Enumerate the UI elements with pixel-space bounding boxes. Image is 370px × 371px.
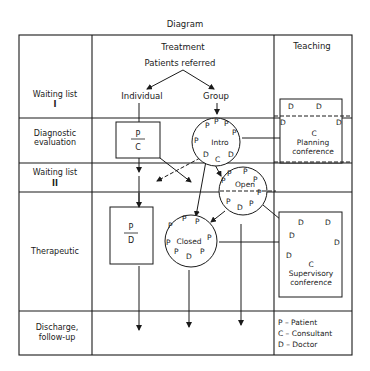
doctor-label: D: [325, 218, 331, 227]
legend: P – Patient C – Consultant D – Doctor: [278, 318, 332, 349]
box-doctor-label: D: [128, 236, 134, 245]
box-patient-label: P: [136, 130, 141, 139]
member-patient: P: [214, 117, 219, 126]
table-grid: [19, 35, 352, 355]
row-label-discharge: Discharge,: [36, 323, 79, 332]
supervisory-conference-box: D D D D D C Supervisory conference: [279, 212, 342, 297]
doctor-label: D: [336, 118, 342, 127]
member-patient: P: [257, 188, 262, 197]
row-label-waiting-list-2-numeral: II: [52, 179, 58, 188]
doctor-label: D: [334, 238, 340, 247]
member-patient: P: [207, 233, 212, 242]
member-patient: P: [253, 175, 258, 184]
individual-label: Individual: [121, 91, 162, 101]
group-label: Group: [203, 91, 229, 101]
row-labels: Waiting list I Diagnostic evaluation Wai…: [30, 90, 79, 342]
legend-consultant: C – Consultant: [278, 329, 332, 338]
row-label-waiting-list-1-numeral: I: [54, 100, 57, 109]
row-label-therapeutic: Therapeutic: [30, 247, 79, 256]
member-patient: P: [232, 128, 237, 137]
member-patient: P: [168, 221, 173, 230]
doctor-label: D: [286, 251, 292, 260]
planning-conference-box: D D D D C Planning conference: [274, 99, 352, 163]
legend-patient: P – Patient: [278, 318, 317, 327]
row-label-waiting-list-1: Waiting list: [33, 90, 77, 99]
member-patient: P: [243, 167, 248, 176]
row-label-waiting-list-2: Waiting list: [33, 168, 77, 177]
member-doctor: D: [186, 252, 192, 261]
member-patient: P: [249, 199, 254, 208]
member-patient: P: [166, 238, 171, 247]
doctor-label: D: [298, 218, 304, 227]
column-header-teaching: Teaching: [292, 41, 330, 51]
doctor-label: D: [289, 231, 295, 240]
member-patient: P: [226, 197, 231, 206]
column-header-treatment: Treatment: [160, 42, 205, 52]
conference-label: conference: [290, 278, 332, 287]
legend-doctor: D – Doctor: [278, 340, 318, 349]
box-consultant-label: C: [135, 143, 141, 152]
member-doctor: D: [237, 203, 243, 212]
row-label-follow-up: follow-up: [39, 333, 76, 342]
member-patient: P: [174, 247, 179, 256]
diagram-title: Diagram: [167, 19, 204, 29]
member-patient: P: [200, 247, 205, 256]
box-patient-label: P: [129, 223, 134, 232]
planning-label: Planning: [297, 138, 330, 147]
member-patient: P: [195, 217, 200, 226]
row-label-evaluation: evaluation: [34, 138, 76, 147]
closed-label: Closed: [176, 237, 201, 246]
open-group-circle: Open P P P P P P P D: [219, 167, 276, 215]
intro-group-circle: Intro P P P P P D C D: [192, 117, 240, 166]
patients-referred-label: Patients referred: [145, 58, 216, 68]
referral-arrows: [147, 70, 214, 89]
conference-label: conference: [292, 147, 334, 156]
consultant-label: C: [308, 260, 313, 269]
therapeutic-individual-box: P D: [110, 207, 153, 264]
member-doctor: D: [203, 150, 209, 159]
intro-label: Intro: [211, 138, 229, 147]
member-doctor: D: [228, 150, 234, 159]
doctor-label: D: [316, 102, 322, 111]
doctor-label: D: [280, 118, 286, 127]
closed-group-circle: Closed P P P P P P D P: [165, 214, 217, 267]
member-patient: P: [182, 214, 187, 223]
member-patient: P: [194, 136, 199, 145]
member-patient: P: [221, 176, 226, 185]
diagnostic-individual-box: P C: [116, 122, 160, 158]
member-patient: P: [224, 119, 229, 128]
doctor-label: D: [288, 102, 294, 111]
consultant-label: C: [311, 129, 316, 138]
member-patient: P: [205, 121, 210, 130]
member-patient: P: [227, 169, 232, 178]
member-consultant: C: [215, 155, 220, 164]
row-label-diagnostic: Diagnostic: [34, 129, 76, 138]
supervisory-label: Supervisory: [289, 269, 334, 278]
care-flow-diagram: Diagram Treatment Teaching Waiting list …: [0, 0, 370, 371]
